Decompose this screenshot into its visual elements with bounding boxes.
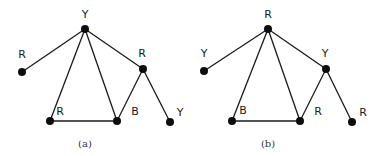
- edge-top-bottom-middle: [85, 29, 117, 121]
- node-label-leaf-right: Y: [176, 106, 184, 119]
- caption-b: (b): [261, 138, 275, 149]
- node-leaf-right: [348, 118, 356, 126]
- node-left: [18, 68, 26, 76]
- node-label-top: R: [264, 8, 272, 21]
- node-bottom-middle: [113, 117, 121, 125]
- node-leaf-right: [166, 118, 174, 126]
- edge-right-leaf-right: [143, 69, 170, 122]
- node-label-right: R: [138, 47, 146, 60]
- node-label-top: Y: [81, 8, 89, 21]
- node-right: [139, 65, 147, 73]
- node-bottom-left: [228, 117, 236, 125]
- node-label-bottom-middle: B: [131, 105, 139, 118]
- node-top: [264, 25, 272, 33]
- node-left: [200, 67, 208, 75]
- graph-b: RYYBRR (b): [200, 8, 368, 149]
- edge-top-left: [204, 29, 268, 71]
- edge-top-bottom-middle: [268, 29, 300, 121]
- graph-coloring-diagram: YRRRBY (a) RYYBRR (b): [0, 0, 383, 156]
- edge-right-leaf-right: [326, 69, 352, 122]
- node-label-leaf-right: R: [359, 106, 367, 119]
- edge-top-bottom-left: [232, 29, 268, 121]
- edge-top-left: [22, 29, 85, 72]
- edge-bottom-middle-right: [300, 69, 326, 121]
- graph-a-nodes: [18, 25, 174, 126]
- edge-top-right: [268, 29, 326, 69]
- node-label-bottom-left: R: [56, 105, 64, 118]
- node-label-bottom-left: B: [239, 104, 247, 117]
- graph-b-nodes: [200, 25, 356, 126]
- edge-top-right: [85, 29, 143, 69]
- node-right: [322, 65, 330, 73]
- caption-a: (a): [78, 138, 92, 149]
- graph-a: YRRRBY (a): [18, 8, 184, 149]
- node-bottom-middle: [296, 117, 304, 125]
- node-label-left: R: [18, 48, 26, 61]
- node-top: [81, 25, 89, 33]
- node-bottom-left: [46, 117, 54, 125]
- graph-b-edges: [204, 29, 352, 122]
- node-label-bottom-middle: R: [314, 105, 322, 118]
- graph-a-edges: [22, 29, 170, 122]
- node-label-left: Y: [200, 47, 208, 60]
- edge-bottom-middle-right: [117, 69, 143, 121]
- graph-a-labels: YRRRBY: [18, 8, 183, 119]
- node-label-right: Y: [321, 47, 329, 60]
